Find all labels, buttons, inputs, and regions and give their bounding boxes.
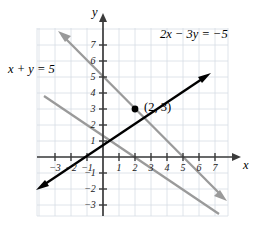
- xtick-label--2: −2: [64, 163, 78, 173]
- xtick-label-4: 4: [162, 163, 172, 173]
- coordinate-graph-figure: −3 −2 −1 1 2 3 4 5 6 7 7 6 5 4 3 2 1 −1 …: [0, 0, 267, 232]
- gray-arrow-lower-right: [214, 190, 227, 201]
- gray-arrow-upper-left: [58, 31, 71, 42]
- ytick-label--3: −3: [82, 200, 98, 210]
- y-axis-arrowhead: [99, 13, 107, 22]
- equation-label-black-line: 2x − 3y = −5: [160, 28, 228, 41]
- y-axis-label: y: [92, 6, 98, 19]
- x-axis-arrowhead: [232, 153, 241, 161]
- xtick-label--3: −3: [48, 163, 62, 173]
- ytick-label-7: 7: [88, 40, 98, 50]
- ytick-label-5: 5: [88, 72, 98, 82]
- ytick-label-4: 4: [88, 88, 98, 98]
- axis-lines: [37, 18, 236, 216]
- ytick-label-1: 1: [88, 136, 98, 146]
- xtick-label-2: 2: [130, 163, 140, 173]
- ytick-label-2: 2: [88, 120, 98, 130]
- ytick-label--1: −1: [82, 168, 98, 178]
- intersection-point-marker: [132, 106, 139, 113]
- xtick-label-3: 3: [146, 163, 156, 173]
- ytick-label--2: −2: [82, 184, 98, 194]
- xtick-label-6: 6: [194, 163, 204, 173]
- equation-label-gray-line: x + y = 5: [8, 63, 55, 76]
- intersection-point-label: (2, 3): [144, 101, 171, 114]
- line-x-plus-y-equals-5: [44, 96, 219, 214]
- x-axis-label: x: [243, 159, 249, 172]
- xtick-label-1: 1: [114, 163, 124, 173]
- grid-lines: [37, 28, 228, 216]
- xtick-label-7: 7: [210, 163, 220, 173]
- xtick-label-5: 5: [178, 163, 188, 173]
- ytick-label-3: 3: [88, 104, 98, 114]
- ytick-label-6: 6: [88, 56, 98, 66]
